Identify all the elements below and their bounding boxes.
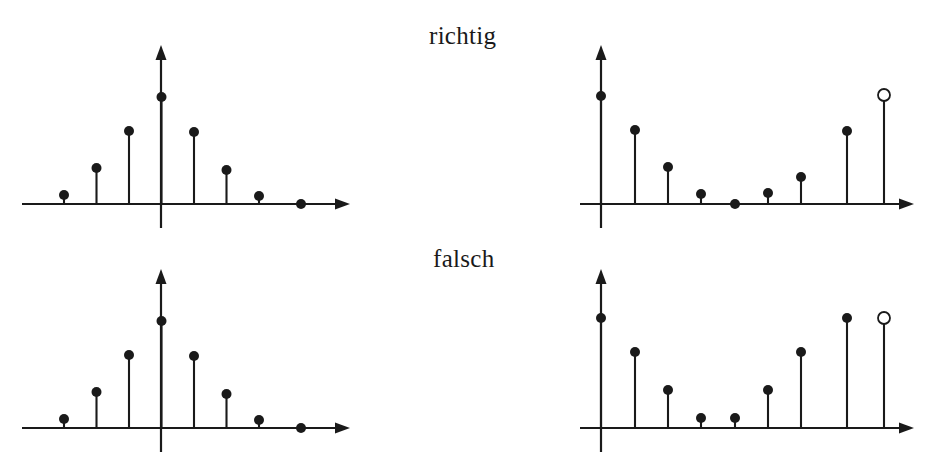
stem-plot-bottom-left (22, 269, 350, 452)
stem-plots-svg (0, 0, 935, 468)
stem-marker (296, 199, 306, 209)
x-axis-arrow-icon (899, 199, 914, 210)
stem-marker (124, 126, 134, 136)
x-axis-arrow-icon (335, 199, 350, 210)
stem-marker (842, 126, 852, 136)
row-label-richtig: richtig (429, 22, 496, 50)
stem-marker (59, 190, 69, 200)
y-axis-arrow-icon (156, 269, 167, 284)
stem-marker (596, 91, 606, 101)
stem-marker (730, 199, 740, 209)
stem-marker (796, 347, 806, 357)
stem-marker (730, 413, 740, 423)
y-axis-arrow-icon (596, 269, 607, 284)
stem-marker (254, 191, 264, 201)
stem-marker (92, 163, 102, 173)
stem-marker (296, 423, 306, 433)
row-label-falsch: falsch (433, 245, 495, 273)
stem-plot-top-right (580, 45, 914, 228)
stem-marker (222, 389, 232, 399)
x-axis-arrow-icon (899, 423, 914, 434)
stem-marker (92, 387, 102, 397)
figure-canvas: richtig falsch (0, 0, 935, 468)
stem-marker (763, 188, 773, 198)
stem-marker (630, 347, 640, 357)
y-axis-arrow-icon (596, 45, 607, 60)
stem-marker (157, 316, 167, 326)
stem-marker (124, 350, 134, 360)
stem-marker (630, 125, 640, 135)
stem-marker (842, 313, 852, 323)
stem-marker (696, 189, 706, 199)
stem-marker (59, 414, 69, 424)
stem-marker-open (878, 312, 890, 324)
stem-marker (254, 415, 264, 425)
stem-marker (663, 162, 673, 172)
stem-marker (596, 313, 606, 323)
y-axis-arrow-icon (156, 45, 167, 60)
x-axis-arrow-icon (335, 423, 350, 434)
stem-marker (189, 351, 199, 361)
stem-marker (796, 172, 806, 182)
stem-plot-bottom-right (580, 269, 914, 452)
stem-marker-open (878, 89, 890, 101)
stem-marker (663, 385, 673, 395)
stem-marker (189, 127, 199, 137)
stem-marker (763, 385, 773, 395)
stem-marker (696, 413, 706, 423)
stem-plot-top-left (22, 45, 350, 228)
stem-marker (222, 165, 232, 175)
stem-marker (157, 92, 167, 102)
